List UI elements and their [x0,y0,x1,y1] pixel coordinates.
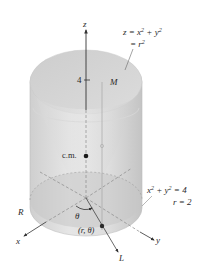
cylinder-equation-line2: r = 2 [173,197,192,207]
z-tick-label: 4 [77,75,82,85]
cylinder-leader [142,196,152,206]
center-of-mass-label: c.m. [62,150,77,160]
point-r-theta-label: (r, θ) [78,225,95,235]
theta-label: θ [75,211,80,221]
point-r-theta [100,224,104,228]
paraboloid-equation-line1: z = x2 + y2 [122,27,162,37]
paraboloid-cylinder-diagram: z 4 x y z = x2 + y2 = r2 M c.m. x2 + y2 … [0,0,211,276]
cylinder-equation-line1: x2 + y2 = 4 [146,185,187,195]
x-axis [24,222,46,236]
paraboloid-equation-line2: = r2 [130,39,145,49]
L-label: L [118,253,124,263]
center-of-mass-point [84,154,89,159]
y-axis [140,232,154,240]
x-axis-label: x [15,236,20,246]
y-axis-label: y [155,235,160,245]
region-R-label: R [17,207,24,217]
z-axis-label: z [82,19,87,29]
M-label: M [109,77,118,87]
